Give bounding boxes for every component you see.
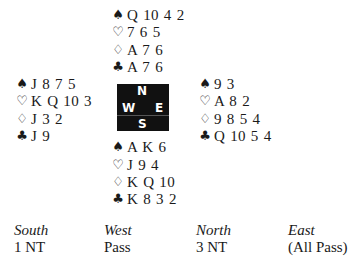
south-clubs: K 8 3 2: [127, 190, 177, 208]
bid-east: (All Pass): [288, 239, 348, 256]
north-clubs: A 7 6: [127, 58, 163, 76]
bidding-column-south: South 1 NT: [14, 222, 48, 256]
west-diamonds: J 3 2: [31, 110, 63, 128]
spade-icon: ♠: [111, 138, 125, 156]
bidding-column-north: North 3 NT: [196, 222, 231, 256]
diamond-icon: ♢: [111, 41, 125, 59]
bid-west: Pass: [104, 239, 132, 256]
compass-west-label: W: [122, 102, 135, 114]
north-spades: Q 10 4 2: [127, 6, 184, 24]
east-hearts: A 8 2: [214, 92, 250, 110]
spade-icon: ♠: [198, 75, 212, 93]
bidding-header-north: North: [196, 222, 231, 239]
west-hearts: K Q 10 3: [31, 92, 92, 110]
compass-north-label: N: [137, 85, 147, 97]
spade-icon: ♠: [111, 6, 125, 24]
west-spades: J 8 7 5: [31, 75, 76, 93]
heart-icon: ♡: [111, 156, 125, 174]
compass-divider: [117, 115, 169, 116]
club-icon: ♣: [198, 127, 212, 145]
diamond-icon: ♢: [111, 173, 125, 191]
bidding-header-south: South: [14, 222, 48, 239]
compass-box: N W E S: [117, 84, 169, 131]
south-spades: A K 6: [127, 138, 166, 156]
diamond-icon: ♢: [15, 110, 29, 128]
bid-south: 1 NT: [14, 239, 48, 256]
bidding-column-west: West Pass: [104, 222, 132, 256]
club-icon: ♣: [111, 190, 125, 208]
bidding-table: South 1 NT West Pass North 3 NT East (Al…: [0, 222, 359, 262]
compass-east-label: E: [155, 102, 163, 114]
diamond-icon: ♢: [198, 110, 212, 128]
east-spades: 9 3: [214, 75, 235, 93]
east-diamonds: 9 8 5 4: [214, 110, 260, 128]
bidding-column-east: East (All Pass): [288, 222, 348, 256]
club-icon: ♣: [111, 58, 125, 76]
north-diamonds: A 7 6: [127, 41, 163, 59]
club-icon: ♣: [15, 127, 29, 145]
bid-north: 3 NT: [196, 239, 231, 256]
south-diamonds: K Q 10: [127, 173, 175, 191]
west-clubs: J 9: [31, 127, 50, 145]
north-hearts: 7 6 5: [127, 23, 161, 41]
heart-icon: ♡: [15, 92, 29, 110]
east-clubs: Q 10 5 4: [214, 127, 271, 145]
heart-icon: ♡: [111, 23, 125, 41]
bidding-header-west: West: [104, 222, 132, 239]
compass-south-label: S: [138, 118, 147, 130]
south-hearts: J 9 4: [127, 156, 159, 174]
bidding-header-east: East: [288, 222, 348, 239]
spade-icon: ♠: [15, 75, 29, 93]
heart-icon: ♡: [198, 92, 212, 110]
